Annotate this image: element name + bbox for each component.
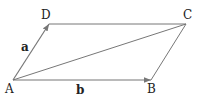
- point-label-a: A: [4, 82, 14, 96]
- diagonal-ac: [13, 24, 186, 80]
- vector-a-arrow: [13, 24, 49, 80]
- vector-label-a: a: [21, 40, 29, 54]
- segment-bc: [151, 24, 186, 80]
- point-label-d: D: [41, 8, 51, 22]
- vector-label-b: b: [76, 83, 84, 96]
- point-label-c: C: [183, 8, 192, 22]
- parallelogram-diagram: A B C D a b: [0, 0, 203, 96]
- point-label-b: B: [147, 82, 156, 96]
